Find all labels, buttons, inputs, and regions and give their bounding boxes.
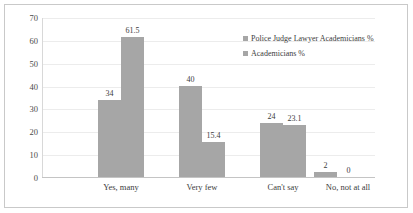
bar[interactable] bbox=[202, 142, 225, 177]
y-tick-label: 60 bbox=[8, 37, 38, 46]
bar-value-label: 15.4 bbox=[207, 132, 221, 140]
bar-slot: 40 bbox=[179, 18, 202, 177]
square-marker-icon bbox=[243, 51, 248, 56]
bar[interactable] bbox=[314, 172, 337, 177]
bar-value-label: 23.1 bbox=[288, 115, 302, 123]
x-axis: Yes, many Very few Can't say No, not at … bbox=[42, 183, 375, 197]
x-axis-line bbox=[42, 177, 375, 178]
bar-value-label: 40 bbox=[187, 76, 195, 84]
bar-slot: 15.4 bbox=[202, 18, 225, 177]
chart-legend: Police Judge Lawyer Academicians % Acade… bbox=[243, 34, 409, 64]
y-tick-label: 50 bbox=[8, 59, 38, 68]
bar-value-label: 34 bbox=[106, 90, 114, 98]
legend-item[interactable]: Police Judge Lawyer Academicians % bbox=[243, 34, 409, 43]
x-tick-label: No, not at all bbox=[326, 183, 370, 192]
legend-item-label: Police Judge Lawyer Academicians % bbox=[251, 34, 374, 43]
bar[interactable] bbox=[260, 123, 283, 178]
bar[interactable] bbox=[121, 37, 144, 177]
bar-value-label: 0 bbox=[347, 167, 351, 175]
bar-slot: 34 bbox=[98, 18, 121, 177]
bar-value-label: 24 bbox=[268, 113, 276, 121]
y-tick-label: 0 bbox=[8, 174, 38, 183]
legend-item[interactable]: Academicians % bbox=[243, 49, 409, 58]
bar[interactable] bbox=[98, 100, 121, 177]
y-tick-label: 10 bbox=[8, 151, 38, 160]
chart-container: 70 60 50 40 30 20 10 0 34 61.5 bbox=[4, 4, 408, 208]
bar-value-label: 2 bbox=[324, 162, 328, 170]
square-marker-icon bbox=[243, 36, 248, 41]
y-tick-label: 40 bbox=[8, 82, 38, 91]
x-tick-label: Very few bbox=[187, 183, 218, 192]
bar-slot: 61.5 bbox=[121, 18, 144, 177]
y-tick-label: 30 bbox=[8, 105, 38, 114]
x-tick-label: Yes, many bbox=[103, 183, 139, 192]
y-tick-label: 70 bbox=[8, 14, 38, 23]
bar-value-label: 61.5 bbox=[126, 27, 140, 35]
y-axis: 70 60 50 40 30 20 10 0 bbox=[5, 18, 38, 178]
bar[interactable] bbox=[179, 86, 202, 177]
x-tick-label: Can't say bbox=[267, 183, 298, 192]
legend-item-label: Academicians % bbox=[251, 49, 305, 58]
bar[interactable] bbox=[283, 125, 306, 177]
y-axis-line bbox=[42, 18, 43, 178]
y-tick-label: 20 bbox=[8, 128, 38, 137]
